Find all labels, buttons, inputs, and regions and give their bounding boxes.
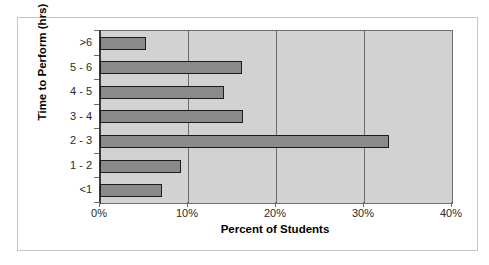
top-edge-artifact-text: · · ·· · <box>0 0 27 3</box>
bar-lt1 <box>100 184 162 197</box>
bar-row-1-2 <box>100 154 181 179</box>
y-tick-label-lt1: <1 <box>79 183 92 195</box>
plot-area <box>99 30 453 204</box>
x-axis-title: Percent of Students <box>99 223 451 235</box>
x-tick-label-10: 10% <box>176 207 198 219</box>
x-tick-label-40: 40% <box>440 207 462 219</box>
bar-gt6 <box>100 37 146 50</box>
bar-row-4-5 <box>100 80 224 105</box>
y-tick-label-1-2: 1 - 2 <box>70 159 92 171</box>
bar-row-2-3 <box>100 129 389 154</box>
bar-1-2 <box>100 160 181 173</box>
bar-2-3 <box>100 135 389 148</box>
bar-4-5 <box>100 86 224 99</box>
y-tick-label-gt6: >6 <box>79 36 92 48</box>
chart-figure: Time to Perform (hrs) >6 5 - 6 4 - 5 3 -… <box>17 17 478 251</box>
y-tick-label-4-5: 4 - 5 <box>70 85 92 97</box>
y-axis-title: Time to Perform (hrs) <box>36 0 48 142</box>
top-edge-artifact: · · ·· · <box>0 0 489 8</box>
gridline-30pct <box>364 31 365 203</box>
x-tick-label-30: 30% <box>352 207 374 219</box>
bar-row-gt6 <box>100 31 146 56</box>
bar-row-5-6 <box>100 56 242 81</box>
gridline-20pct <box>276 31 277 203</box>
x-tick-label-0: 0% <box>91 207 107 219</box>
y-tick-label-3-4: 3 - 4 <box>70 110 92 122</box>
y-tick-label-2-3: 2 - 3 <box>70 134 92 146</box>
bar-row-3-4 <box>100 105 243 130</box>
bar-row-lt1 <box>100 178 162 203</box>
bar-5-6 <box>100 61 242 74</box>
x-tick-label-20: 20% <box>264 207 286 219</box>
bar-3-4 <box>100 110 243 123</box>
y-tick-label-5-6: 5 - 6 <box>70 61 92 73</box>
